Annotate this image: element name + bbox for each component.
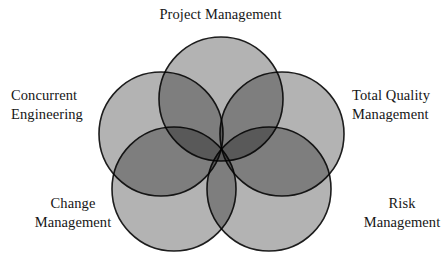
label-change-management: Change Management (18, 194, 128, 232)
label-concurrent-engineering: Concurrent Engineering (11, 86, 121, 124)
label-risk-management: Risk Management (352, 194, 441, 232)
venn-diagram: Project Management Concurrent Engineerin… (0, 0, 441, 270)
label-total-quality-management: Total Quality Management (352, 86, 441, 124)
venn-circle-risk-management (207, 127, 331, 251)
label-project-management: Project Management (0, 5, 441, 24)
venn-circle-group (99, 37, 344, 251)
